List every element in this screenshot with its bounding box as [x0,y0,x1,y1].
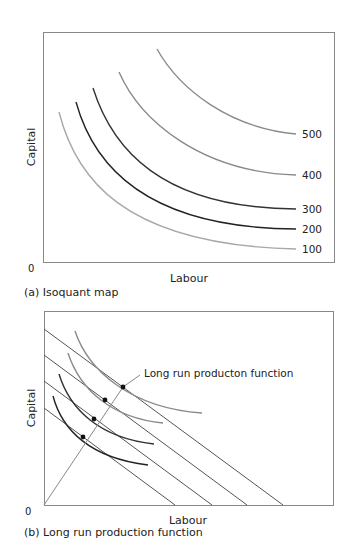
isoquant-diagrams: 100200300400500 Capital 0 Labour (a) Iso… [0,0,350,556]
panel-a-origin: 0 [28,263,34,274]
panel-a-y-label: Capital [25,128,38,167]
tangency-point [92,417,97,422]
isoquant-label-400: 400 [302,169,322,181]
isoquant-label-300: 300 [302,203,322,215]
panel-b-caption: (b) Long run production function [24,526,203,539]
panel-b-frame [45,312,334,506]
panel-a-isoquant-map: 100200300400500 Capital 0 Labour (a) Iso… [24,33,335,300]
panel-b-origin: 0 [25,506,31,517]
tangency-point [103,398,108,403]
isoquant-label-200: 200 [302,223,322,235]
panel-a-frame [44,33,335,263]
isoquant-label-100: 100 [302,243,322,255]
panel-a-x-label: Labour [170,272,209,285]
panel-b-long-run-production: Long run producton function Capital 0 La… [24,312,334,540]
annotation-label: Long run producton function [144,367,293,379]
panel-a-caption: (a) Isoquant map [24,286,118,299]
panel-b-y-label: Capital [25,389,38,428]
tangency-point [121,385,126,390]
isoquant-label-500: 500 [302,128,322,140]
tangency-point [81,435,86,440]
